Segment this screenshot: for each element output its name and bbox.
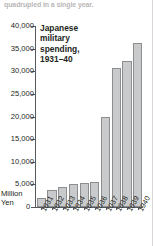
figure-japanese-military-spending: quadrupled in a single year. 5,00010,000… — [0, 0, 153, 246]
y-axis-tick-label: 15,000 — [0, 135, 34, 143]
x-axis-tick-labels: 1931193219331934193519361937193819391940 — [36, 209, 146, 243]
x-axis-tick — [138, 207, 139, 210]
x-axis-tick — [106, 207, 107, 210]
x-axis-tick — [127, 207, 128, 210]
y-axis-tick-label: 5,000 — [0, 180, 34, 188]
y-axis-tick-label: 40,000 — [0, 22, 34, 30]
x-axis-tick — [95, 207, 96, 210]
y-axis-tick-label: 10,000 — [0, 158, 34, 166]
bar-chart-plot: 5,00010,00015,00020,00025,00030,00035,00… — [0, 0, 153, 246]
x-axis-tick — [52, 207, 53, 210]
x-axis-tick — [73, 207, 74, 210]
x-axis-tick — [116, 207, 117, 210]
x-axis-tick — [63, 207, 64, 210]
chart-title: Japanese military spending, 1931–40 — [40, 23, 102, 65]
bar-1937 — [101, 117, 110, 208]
y-axis-tick-label: 35,000 — [0, 45, 34, 53]
x-axis-tick — [41, 207, 42, 210]
y-axis-tick-label: 25,000 — [0, 90, 34, 98]
bar-1940 — [133, 43, 142, 207]
y-axis-tick-label: 20,000 — [0, 113, 34, 121]
bar-1938 — [112, 68, 121, 207]
y-axis-tick-label: 30,000 — [0, 67, 34, 75]
x-axis-tick — [84, 207, 85, 210]
y-axis-zero-label: 0 — [26, 203, 30, 211]
bar-1939 — [122, 61, 131, 207]
